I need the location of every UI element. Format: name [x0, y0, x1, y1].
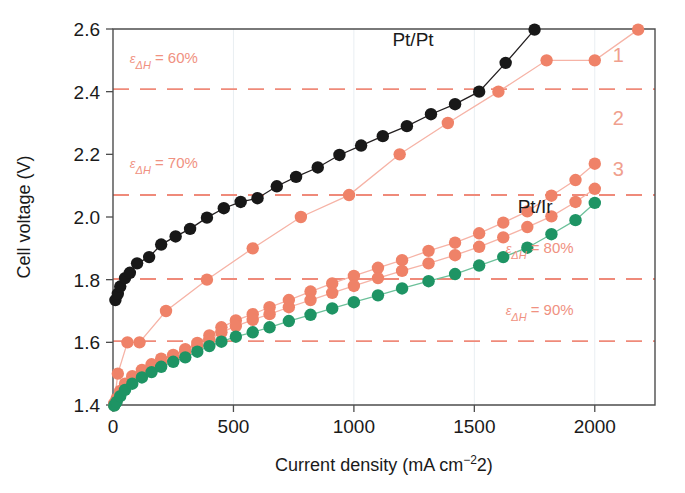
- data-point: [473, 85, 485, 97]
- data-point: [396, 282, 408, 294]
- data-point: [333, 149, 345, 161]
- series-label-pt-ir: Pt/Ir: [518, 196, 554, 217]
- data-point: [201, 273, 213, 285]
- efficiency-label: εΔH= 80%: [506, 239, 574, 261]
- data-point: [632, 23, 644, 35]
- x-axis-title: Current density (mA cm−22): [275, 453, 493, 475]
- data-point: [521, 221, 533, 233]
- data-point: [263, 308, 275, 320]
- data-point: [312, 161, 324, 173]
- data-point: [377, 130, 389, 142]
- data-point: [449, 268, 461, 280]
- data-point: [251, 192, 263, 204]
- data-point: [355, 139, 367, 151]
- x-tick-label: 1500: [453, 416, 495, 437]
- data-point: [234, 196, 246, 208]
- data-series-layer: [108, 23, 644, 411]
- polarization-curve-plot: 05001000150020001.41.61.82.02.22.42.6 Cu…: [0, 0, 685, 493]
- y-axis-title: Cell voltage (V): [14, 155, 34, 278]
- data-point: [497, 216, 509, 228]
- data-point: [442, 117, 454, 129]
- data-point: [121, 336, 133, 348]
- data-point: [247, 314, 259, 326]
- data-point: [271, 180, 283, 192]
- data-point: [169, 230, 181, 242]
- data-point: [589, 197, 601, 209]
- data-point: [326, 287, 338, 299]
- y-tick-label: 2.2: [74, 144, 100, 165]
- y-tick-label: 1.4: [74, 395, 101, 416]
- y-tick-label: 1.6: [74, 332, 100, 353]
- data-point: [218, 202, 230, 214]
- data-point: [396, 254, 408, 266]
- data-point: [473, 259, 485, 271]
- chart-figure: 05001000150020001.41.61.82.02.22.42.6 Cu…: [0, 0, 685, 493]
- series-label-2: 2: [613, 107, 624, 129]
- data-point: [283, 315, 295, 327]
- data-point: [343, 189, 355, 201]
- data-point: [230, 330, 242, 342]
- data-point: [304, 309, 316, 321]
- data-point: [372, 272, 384, 284]
- data-point: [499, 57, 511, 69]
- data-point: [179, 351, 191, 363]
- data-point: [283, 301, 295, 313]
- text-labels-layer: Current density (mA cm−22)Cell voltage (…: [14, 29, 624, 475]
- data-point: [203, 340, 215, 352]
- data-point: [155, 238, 167, 250]
- data-point: [589, 183, 601, 195]
- data-point: [215, 336, 227, 348]
- data-point: [425, 108, 437, 120]
- data-point: [492, 85, 504, 97]
- data-point: [589, 54, 601, 66]
- data-point: [449, 98, 461, 110]
- data-point: [422, 257, 434, 269]
- x-tick-label: 2000: [574, 416, 616, 437]
- data-point: [372, 289, 384, 301]
- data-point: [449, 236, 461, 248]
- series-label-pt-pt: Pt/Pt: [392, 29, 434, 50]
- data-point: [569, 196, 581, 208]
- data-point: [473, 227, 485, 239]
- series-label-1: 1: [613, 44, 624, 66]
- data-point: [348, 296, 360, 308]
- data-point: [422, 245, 434, 257]
- data-point: [155, 361, 167, 373]
- data-point: [295, 211, 307, 223]
- data-point: [160, 305, 172, 317]
- data-point: [263, 321, 275, 333]
- data-point: [131, 257, 143, 269]
- data-point: [230, 320, 242, 332]
- data-point: [143, 251, 155, 263]
- data-point: [473, 241, 485, 253]
- efficiency-label: εΔH= 70%: [130, 154, 198, 176]
- y-tick-label: 2.4: [74, 82, 101, 103]
- x-tick-label: 0: [108, 416, 119, 437]
- data-point: [449, 249, 461, 261]
- data-point: [540, 54, 552, 66]
- data-point: [167, 356, 179, 368]
- data-point: [569, 174, 581, 186]
- data-point: [201, 211, 213, 223]
- data-point: [589, 158, 601, 170]
- y-tick-label: 2.6: [74, 19, 100, 40]
- data-point: [112, 367, 124, 379]
- data-point: [393, 148, 405, 160]
- data-point: [184, 223, 196, 235]
- y-tick-label: 1.8: [74, 270, 100, 291]
- x-tick-label: 1000: [333, 416, 375, 437]
- data-point: [247, 326, 259, 338]
- data-point: [326, 302, 338, 314]
- data-point: [422, 275, 434, 287]
- data-point: [290, 171, 302, 183]
- data-point: [401, 120, 413, 132]
- series-label-3: 3: [613, 158, 624, 180]
- data-point: [396, 265, 408, 277]
- y-tick-label: 2.0: [74, 207, 100, 228]
- data-point: [304, 294, 316, 306]
- data-point: [191, 346, 203, 358]
- data-point: [528, 23, 540, 35]
- efficiency-label: εΔH= 90%: [506, 301, 574, 323]
- data-point: [569, 214, 581, 226]
- data-point: [133, 336, 145, 348]
